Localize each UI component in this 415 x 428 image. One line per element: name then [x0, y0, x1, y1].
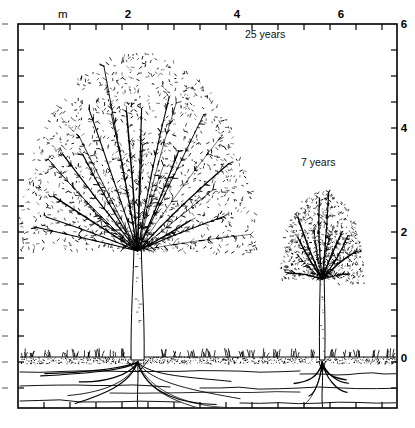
soil-dot — [340, 363, 341, 364]
soil-dot — [255, 363, 256, 364]
soil-dot — [310, 362, 311, 363]
soil-dot — [288, 359, 289, 360]
soil-dot — [312, 357, 313, 358]
twig-dot — [320, 239, 321, 240]
soil-dot — [68, 358, 69, 359]
soil-dot — [199, 360, 200, 361]
soil-dot — [288, 362, 289, 363]
soil-dot — [372, 360, 373, 361]
soil-dot — [372, 362, 373, 363]
soil-dot — [265, 361, 266, 362]
soil-dot — [260, 357, 261, 358]
twig — [145, 243, 147, 244]
soil-dot — [167, 363, 168, 364]
soil-dot — [232, 359, 233, 360]
figure-background — [0, 0, 415, 428]
soil-dot — [328, 359, 329, 360]
soil-dot — [267, 361, 268, 362]
soil-dot — [189, 357, 190, 358]
soil-dot — [119, 358, 120, 359]
twig-dot — [211, 155, 213, 156]
soil-dot — [176, 361, 177, 362]
twig-dot — [199, 80, 200, 82]
twig-dot — [209, 243, 211, 244]
soil-dot — [48, 358, 49, 359]
twig-dot — [356, 257, 357, 258]
soil-dot — [99, 363, 100, 364]
soil-dot — [263, 362, 264, 363]
soil-dot — [252, 357, 253, 358]
soil-dot — [316, 362, 317, 363]
twig — [296, 273, 298, 274]
twig-dot — [327, 212, 328, 213]
twig-dot — [172, 214, 173, 215]
twig — [213, 189, 216, 190]
soil-dot — [103, 358, 104, 359]
twig-dot — [155, 199, 158, 200]
twig-dot — [218, 249, 219, 250]
soil-dot — [228, 359, 229, 360]
twig-dot — [79, 119, 80, 120]
unit-label-m: m — [58, 8, 68, 20]
soil-dot — [389, 363, 390, 364]
soil-dot — [360, 359, 361, 360]
twig-dot — [158, 170, 159, 171]
twig-dot — [142, 245, 143, 247]
twig-dot — [159, 203, 160, 204]
twig-dot — [186, 109, 187, 110]
twig — [324, 262, 325, 263]
soil-dot — [302, 359, 303, 360]
soil-dot — [115, 362, 116, 363]
small-tree-age-label: 7 years — [301, 156, 335, 168]
soil-dot — [304, 359, 305, 360]
soil-dot — [303, 359, 304, 360]
soil-dot — [30, 363, 31, 364]
soil-dot — [299, 357, 300, 358]
soil-dot — [292, 358, 293, 359]
twig-dot — [126, 231, 127, 232]
soil-dot — [258, 363, 259, 364]
twig-dot — [25, 233, 26, 234]
soil-dot — [355, 358, 356, 359]
soil-dot — [377, 362, 378, 363]
soil-dot — [79, 357, 80, 358]
soil-dot — [189, 358, 190, 359]
soil-dot — [338, 357, 339, 358]
soil-dot — [97, 358, 98, 359]
soil-dot — [60, 362, 61, 363]
soil-dot — [46, 357, 47, 358]
soil-dot — [261, 360, 262, 361]
soil-dot — [201, 363, 202, 364]
soil-dot — [51, 358, 52, 359]
soil-dot — [310, 363, 311, 364]
soil-dot — [73, 362, 74, 363]
soil-dot — [143, 363, 144, 364]
grass-blade — [264, 352, 265, 356]
soil-dot — [156, 357, 157, 358]
twig-dot — [308, 265, 309, 266]
soil-dot — [346, 359, 347, 360]
soil-dot — [264, 362, 265, 363]
soil-dot — [280, 359, 281, 360]
taproot — [137, 363, 138, 410]
soil-dot — [348, 359, 349, 360]
twig-dot — [112, 191, 113, 192]
soil-dot — [167, 357, 168, 358]
soil-dot — [73, 359, 74, 360]
twig-dot — [325, 224, 326, 225]
soil-dot — [75, 363, 76, 364]
soil-dot — [83, 362, 84, 363]
soil-dot — [102, 357, 103, 358]
twig-dot — [340, 258, 341, 259]
twig-dot — [108, 111, 109, 112]
soil-dot — [362, 360, 363, 361]
twig-dot — [231, 128, 232, 130]
soil-dot — [379, 361, 380, 362]
soil-dot — [392, 361, 393, 362]
twig-dot — [305, 212, 306, 213]
twig-dot — [321, 263, 322, 264]
soil-dot — [26, 357, 27, 358]
soil-dot — [115, 363, 116, 364]
soil-dot — [394, 359, 395, 360]
soil-dot — [148, 359, 149, 360]
